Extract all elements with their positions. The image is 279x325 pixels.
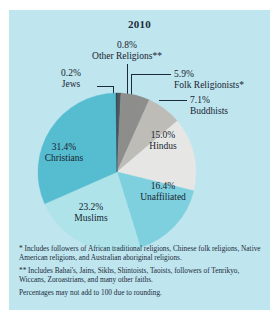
slice-name-christians: Christians	[31, 153, 97, 164]
pie-chart-svg	[37, 92, 197, 252]
leader-line-other-religions	[127, 64, 128, 94]
slice-value-jews: 0.2%	[47, 68, 95, 79]
slice-name-jews: Jews	[47, 79, 95, 90]
slice-name-folk-religionists: Folk Religionists*	[174, 80, 244, 91]
slice-name-other-religions: Other Religions**	[57, 51, 197, 62]
figure-panel: 2010 0.8% Other Religions** 0.2% Jews 5.…	[9, 10, 270, 310]
slice-label-unaffiliated: 16.4% Unaffiliated	[124, 181, 202, 202]
footnote-rounding: Percentages may not add to 100 due to ro…	[19, 288, 263, 297]
chart-title: 2010	[9, 18, 270, 30]
pie-chart	[37, 92, 197, 252]
slice-name-hindus: Hindus	[132, 141, 194, 152]
slice-label-other-religions: 0.8% Other Religions**	[57, 40, 197, 61]
slice-name-unaffiliated: Unaffiliated	[124, 192, 202, 203]
leader-line-jews-h	[97, 86, 113, 87]
slice-label-hindus: 15.0% Hindus	[132, 130, 194, 151]
slice-value-other-religions: 0.8%	[57, 40, 197, 51]
footnote-double-asterisk: ** Includes Bahai's, Jains, Sikhs, Shint…	[19, 266, 263, 284]
slice-label-jews: 0.2% Jews	[47, 68, 95, 89]
slice-label-muslims: 23.2% Muslims	[58, 202, 124, 223]
slice-value-muslims: 23.2%	[58, 202, 124, 213]
slice-value-unaffiliated: 16.4%	[124, 181, 202, 192]
slice-value-folk-religionists: 5.9%	[174, 69, 244, 80]
slice-value-christians: 31.4%	[31, 142, 97, 153]
leader-line-folk	[131, 74, 171, 75]
slice-label-christians: 31.4% Christians	[31, 142, 97, 163]
slice-name-muslims: Muslims	[58, 213, 124, 224]
slice-value-hindus: 15.0%	[132, 130, 194, 141]
footnote-single-asterisk: * Includes followers of African traditio…	[19, 244, 263, 262]
slice-label-folk-religionists: 5.9% Folk Religionists*	[174, 69, 244, 90]
